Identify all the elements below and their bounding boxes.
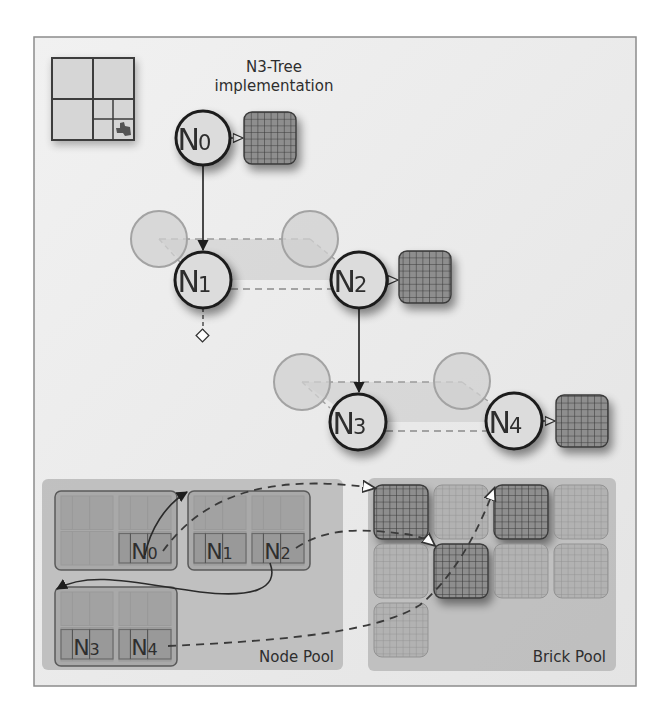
brick-n2 xyxy=(399,251,451,303)
node-slot-letter: N xyxy=(131,635,147,660)
node-slot-letter: N xyxy=(206,539,222,564)
node-letter: N xyxy=(178,264,200,299)
brick-free xyxy=(374,544,428,598)
svg-text:2: 2 xyxy=(354,273,367,297)
node-pool-cell xyxy=(61,496,113,530)
node-pool-label: Node Pool xyxy=(259,648,334,666)
brick-free xyxy=(374,603,428,657)
node-pool-cell xyxy=(119,592,171,626)
node-index: 2 xyxy=(354,273,367,297)
node-pool-cell: N3 xyxy=(61,628,113,662)
node-slot-index: 0 xyxy=(148,544,158,563)
node-tile: N0 xyxy=(55,491,177,570)
svg-text:1: 1 xyxy=(198,273,211,297)
brick-free xyxy=(554,544,608,598)
svg-text:0: 0 xyxy=(198,131,211,155)
node-letter: N xyxy=(178,122,200,157)
svg-text:N: N xyxy=(334,264,356,299)
tree-node-n2: N 2 xyxy=(331,252,387,308)
brick-free xyxy=(494,544,548,598)
node-slot-letter: N xyxy=(73,635,89,660)
node-pool-cell xyxy=(61,532,113,566)
brick-n0 xyxy=(244,112,296,164)
brick-pool: Brick Pool xyxy=(368,478,616,671)
node-slot-letter: N xyxy=(264,539,280,564)
node-index: 4 xyxy=(509,414,522,438)
svg-text:3: 3 xyxy=(353,415,366,439)
brick-used xyxy=(434,544,488,598)
svg-text:N: N xyxy=(333,406,355,441)
quadtree-icon xyxy=(52,58,134,140)
diagram-title-line2: implementation xyxy=(215,77,334,95)
svg-text:N: N xyxy=(178,264,200,299)
tree-node-n1: N 1 xyxy=(175,252,231,308)
node-tile: N1N2 xyxy=(188,491,310,570)
node-pool-cell xyxy=(194,496,246,530)
brick-pool-label: Brick Pool xyxy=(533,648,606,666)
node-index: 1 xyxy=(198,273,211,297)
node-pool-cell: N1 xyxy=(194,532,246,566)
ghost-child-node xyxy=(434,353,490,409)
node-pool-cell xyxy=(61,592,113,626)
ghost-child-node xyxy=(131,211,187,267)
brick-n4 xyxy=(556,395,608,447)
brick-used xyxy=(494,485,548,539)
node-pool-cell xyxy=(252,496,304,530)
node-slot-index: 4 xyxy=(148,640,158,659)
node-pool: Node Pool N0N1N2N3N4 xyxy=(42,479,343,670)
node-slot-index: 2 xyxy=(281,544,291,563)
node-letter: N xyxy=(489,405,511,440)
node-index: 3 xyxy=(353,415,366,439)
svg-text:N: N xyxy=(489,405,511,440)
svg-text:4: 4 xyxy=(509,414,522,438)
n3-tree-diagram: N3-Tree implementation xyxy=(0,0,667,724)
tree-node-n3: N 3 xyxy=(330,394,386,450)
node-pool-cell: N0 xyxy=(119,532,171,566)
diagram-title-line1: N3-Tree xyxy=(246,58,302,76)
brick-free xyxy=(554,485,608,539)
svg-text:N: N xyxy=(178,122,200,157)
node-letter: N xyxy=(334,264,356,299)
brick-free xyxy=(434,485,488,539)
node-pool-cell: N4 xyxy=(119,628,171,662)
node-slot-index: 3 xyxy=(90,640,100,659)
tree-node-n4: N 4 xyxy=(486,393,542,449)
tree-node-n0: N 0 xyxy=(176,111,230,165)
node-letter: N xyxy=(333,406,355,441)
ghost-child-node xyxy=(282,211,338,267)
node-index: 0 xyxy=(198,131,211,155)
ghost-child-node xyxy=(274,354,330,410)
node-tile: N3N4 xyxy=(55,587,177,666)
node-slot-index: 1 xyxy=(223,544,233,563)
